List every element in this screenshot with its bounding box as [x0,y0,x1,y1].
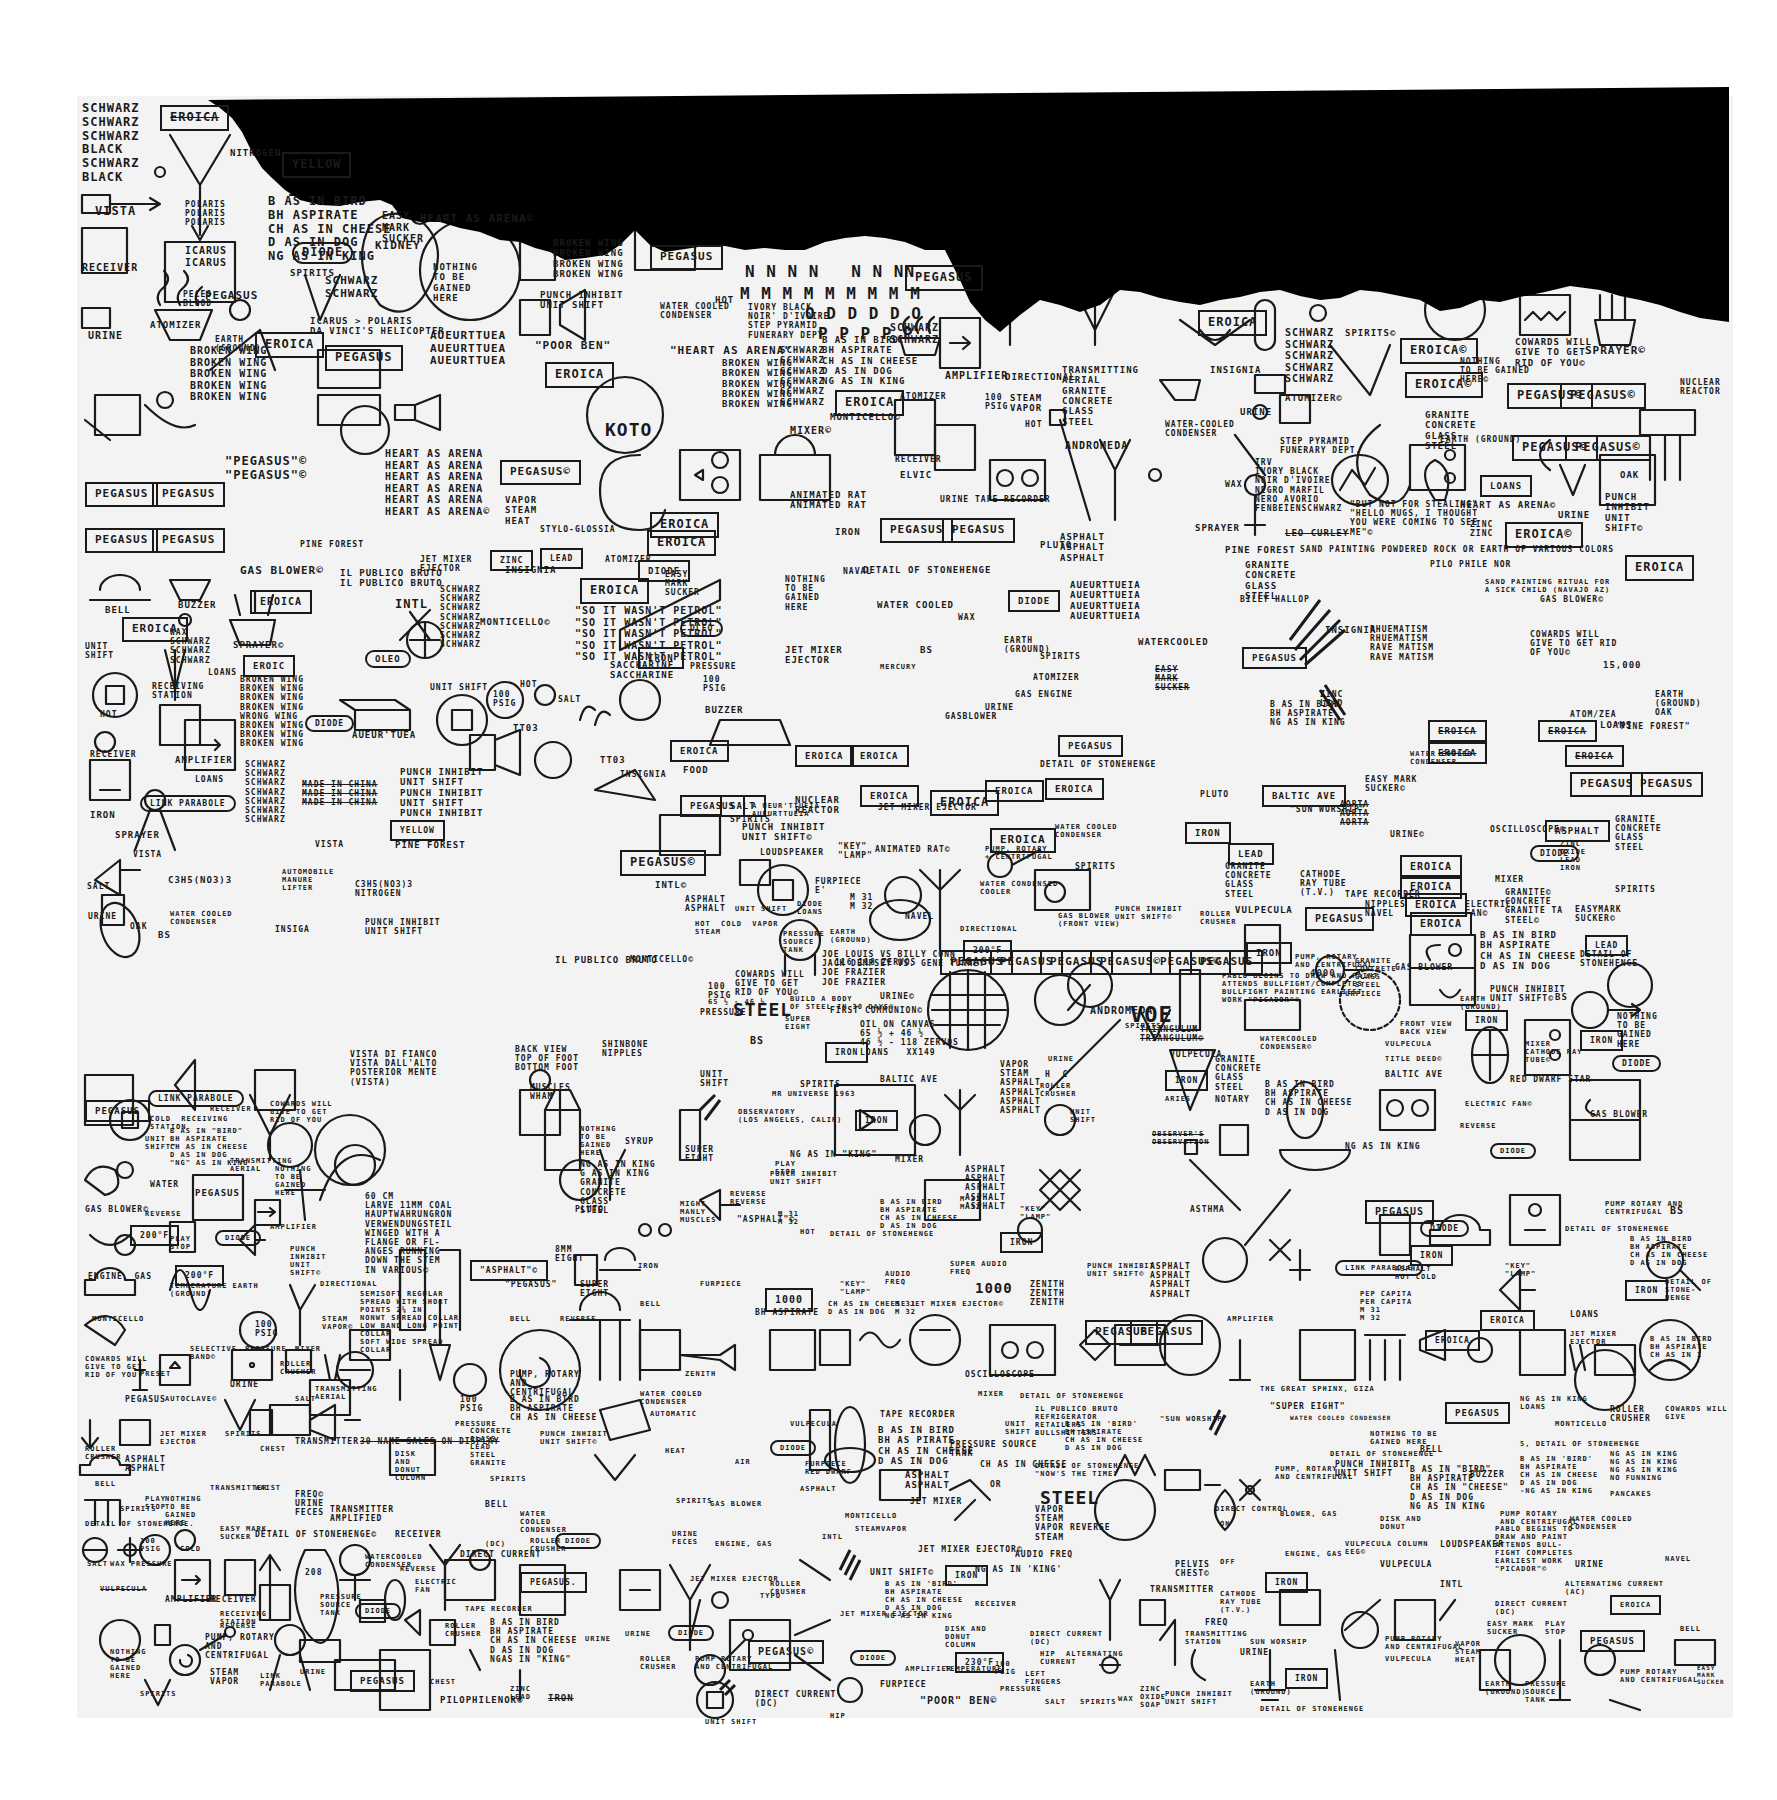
artwork-label: SUPER AUDIO FREQ [950,1260,1007,1276]
artwork-label: PINE FOREST [395,840,466,850]
artwork-label: FURPIECE [880,1680,927,1689]
artwork-label: 100 PSIG [460,1395,483,1413]
artwork-label: ASPHALT [1545,820,1610,842]
artwork-label: PLAY STOP [170,1235,191,1251]
artwork-label: PUMP ROTARY AND CENTRIFUGAL [1500,1510,1578,1526]
artwork-label: UNIT SHIFT [700,1070,729,1088]
artwork-label: ROLLER CRUSHER [85,1445,122,1461]
artwork-label: GRANITE CONCRETE GLASS STEEL [1615,815,1662,852]
artwork-label: DIODE [555,1533,601,1549]
artwork-label: DIODE [1490,1143,1536,1159]
artwork-label: "ASPHALT"© [470,1260,548,1281]
artwork-label: HIP ALTERNATING CURRENT [1040,1650,1123,1666]
artwork-label: DETAIL OF STONEHENGE [1580,950,1638,968]
artwork-label: ELECTRIC FAN [415,1578,457,1594]
artwork-label: EROICA [1480,1310,1535,1331]
artwork-label: URINE [625,1630,651,1638]
artwork-label: EROICA© [1505,522,1583,548]
artwork-label: INSIGA [275,925,310,934]
artwork-label: REVERSE [220,1622,257,1630]
artwork-label: LINK PARABOLE [260,1672,302,1688]
artwork-label: GAS BLOWER [710,1500,762,1508]
artwork-label: REVERSE [145,1210,182,1218]
artwork-label: POLARIS POLARIS POLARIS [185,200,226,228]
artwork-label: NAVEL [1665,1555,1691,1563]
artwork-label: IRON [548,1693,574,1703]
artwork-label: STEAMVAPOR [855,1525,907,1533]
artwork-label: DISK AND DONUT [1380,1515,1422,1531]
artwork-label: INTL [822,1533,843,1541]
artwork-label: EASYMARK SUCKER© [1575,905,1622,923]
artwork-label: OLEO [365,650,411,668]
artwork-label: IRON [825,1042,868,1063]
artwork-label: B AS IN 'BIRD' BH ASPIRATE CH AS IN CHEE… [1065,1420,1143,1452]
artwork-label: EROICA [250,590,312,614]
artwork-label: PEGASUS [942,518,1015,543]
artwork-label: RECEIVER [895,455,942,464]
artwork-label: ALTERNATING CURRENT (AC) [1565,1580,1664,1596]
artwork-label: VULPECULA [1385,1655,1432,1663]
artwork-label: TRANSMITTING AERIAL GRANITE CONCRETE GLA… [1062,365,1139,427]
artwork-label: EROICA [647,530,716,556]
artwork-label: SPIRITS [1615,885,1656,894]
artwork-label: BROKEN WING BROKEN WING BROKEN WING BROK… [240,675,304,749]
artwork-label: TRANSMITTER AMPLIFIED [330,1505,394,1523]
artwork-label: URINE [1558,510,1590,520]
artwork-label: WATER COOLED CONDENSER [1055,823,1118,839]
artwork-label: UNIT SHIFT [430,683,488,692]
artwork-label: BELL [1680,1625,1701,1633]
artwork-label: EROICA [1428,720,1487,742]
artwork-label: INTL [1440,1580,1463,1589]
artwork-label: ATOMIZER [605,555,652,564]
artwork-label: WATER [150,1180,179,1189]
artwork-label: PUNCH INHIBIT UNIT SHIFT [1165,1690,1233,1706]
artwork-label: WATER COOLED CONDENSER [520,1510,567,1534]
artwork-label: SCHWARZ SCHWARZ SCHWARZ SCHWARZ SCHWARZ [1285,327,1334,385]
artwork-label: PEGASUS [1242,647,1307,669]
artwork-label: SAND PAINTING POWDERED ROCK OR EARTH OF … [1300,545,1614,554]
artwork-label: BALTIC AVE [880,1075,938,1084]
artwork-label: IRON [1285,1668,1328,1689]
artwork-label: LOANS [1570,1310,1599,1319]
artwork-label: ASPHALT [800,1485,837,1493]
artwork-label: NG AS IN KING NG AS IN KING NG AS IN KIN… [1610,1450,1678,1482]
artwork-label: DIRECT CURRENT (DC) [1030,1630,1103,1646]
artwork-label: SUN WORSHIP [1250,1638,1307,1646]
artwork-label: EARTH (GROUND) [830,928,872,944]
artwork-label: HEART AS ARENA HEART AS ARENA HEART AS A… [385,448,490,517]
artwork-label: HOT [800,1228,816,1236]
artwork-label: FURPIECE [1340,990,1382,998]
artwork-label: MONTICELLO [1555,1420,1607,1428]
artwork-label: VULPECULA [1380,1560,1432,1569]
artwork-label: SALT [87,1560,108,1568]
artwork-label: DETAIL OF STONEHENGE [830,1230,934,1238]
artwork-label: GAS BLOWER© [240,565,324,578]
artwork-label: UNIT SHIFT [1070,1108,1096,1124]
artwork-label: KOTO [605,420,652,441]
artwork-label: TAPE RECORDER [880,1410,956,1419]
artwork-label: GRANITE© CONCRETE GRANITE TA STEEL© [1505,888,1563,925]
artwork-label: MIXER CATHODE RAY TUBE© [1525,1040,1582,1064]
artwork-label: M 31 M 32 [778,1210,799,1226]
artwork-label: IRON [1000,1232,1043,1253]
artwork-label: DIODE [770,1440,816,1456]
artwork-label: PEGASUS [85,1100,150,1122]
artwork-label: EROICA [1538,720,1597,742]
artwork-label: "POOR BEN" [535,340,611,353]
artwork-label: EARTH (GROUND) [1440,435,1521,444]
artwork-label: SCHWARZ SCHWARZ [890,322,939,345]
artwork-label: PEGASUS [905,265,983,291]
artwork-label: FURPIECE RED DWARF [805,1460,852,1476]
artwork-label: WAX [958,613,975,622]
artwork-label: PLUTO [575,1205,604,1214]
artwork-label: RECEIVING STATION [152,682,204,700]
artwork-label: VISTA [315,840,344,849]
artwork-label: STYLO-GLOSSIA [540,525,616,534]
artwork-label: BACK VIEW TOP OF FOOT BOTTOM FOOT [515,1045,579,1073]
artwork-label: INSIGNIA [620,770,667,779]
artwork-label: SCHWARZ SCHWARZ SCHWARZ SCHWARZ SCHWARZ … [245,760,286,824]
artwork-label: GAS BLOWER© [85,1205,149,1214]
artwork-label: ATOMIZER [1033,673,1080,682]
artwork-label: BELL [1420,1445,1443,1454]
artwork-label: EROICA [1425,1330,1480,1351]
